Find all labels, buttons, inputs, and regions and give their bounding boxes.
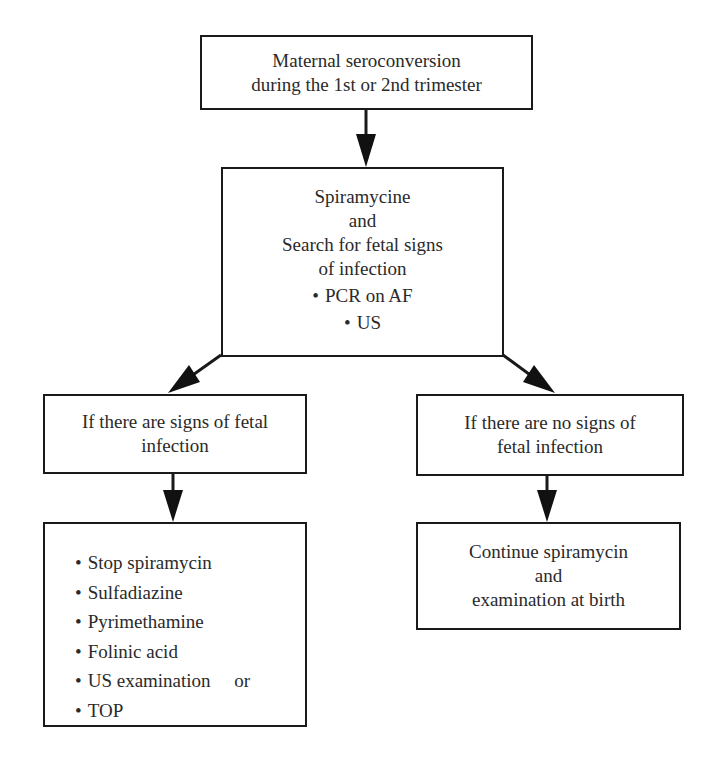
node-text: Maternal seroconversion: [272, 49, 460, 73]
arrow-positive-to-actions: [163, 473, 183, 522]
node-text: fetal infection: [497, 435, 603, 459]
node-signs-of-infection: If there are signs of fetal infection: [43, 394, 307, 474]
list-item: TOP: [75, 696, 123, 726]
node-text: If there are signs of fetal: [82, 410, 268, 434]
list-item: Folinic acid: [75, 637, 178, 667]
arrow-treatment-to-positive: [168, 355, 221, 393]
node-text: If there are no signs of: [464, 411, 635, 435]
arrow-treatment-to-negative: [503, 355, 555, 393]
node-spiramycine-search: Spiramycine and Search for fetal signs o…: [221, 167, 504, 357]
list-item: US examination or: [75, 666, 250, 696]
node-text: and: [535, 564, 562, 588]
node-text: examination at birth: [472, 588, 625, 612]
node-no-signs-of-infection: If there are no signs of fetal infection: [416, 394, 684, 476]
node-treatment-actions: Stop spiramycin Sulfadiazine Pyrimethami…: [43, 522, 307, 727]
list-item: Sulfadiazine: [75, 578, 183, 608]
list-item: Pyrimethamine: [75, 607, 204, 637]
node-text: of infection: [318, 257, 406, 281]
node-text: Continue spiramycin: [469, 540, 628, 564]
arrow-negative-to-actions: [537, 475, 557, 522]
node-text: Spiramycine: [314, 185, 410, 209]
list-item: Stop spiramycin: [75, 548, 212, 578]
node-text: during the 1st or 2nd trimester: [251, 73, 482, 97]
node-text: infection: [141, 434, 209, 458]
node-continue-spiramycin: Continue spiramycin and examination at b…: [416, 522, 681, 630]
arrow-start-to-treatment: [356, 109, 376, 167]
node-text: and: [349, 209, 376, 233]
node-maternal-seroconversion: Maternal seroconversion during the 1st o…: [200, 35, 533, 110]
node-text: Search for fetal signs: [282, 233, 443, 257]
bullet-item: PCR on AF: [312, 284, 412, 308]
bullet-item: US: [344, 311, 381, 335]
